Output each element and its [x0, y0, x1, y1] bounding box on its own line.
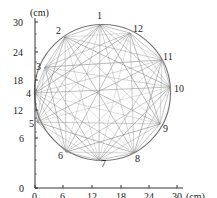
x-tick-label: 30	[172, 191, 182, 198]
node-label-7: 7	[101, 158, 106, 169]
node-label-9: 9	[163, 123, 168, 134]
node-label-2: 2	[56, 25, 61, 36]
node-label-4: 4	[26, 88, 31, 99]
node-label-5: 5	[29, 118, 34, 129]
y-tick-label: 18	[13, 75, 23, 86]
graph-edge	[45, 67, 134, 153]
graph-edge	[130, 33, 134, 153]
graph-edge	[66, 152, 99, 160]
circle-graph-figure: 06121824300612182430 123456789101112 (cm…	[0, 0, 217, 198]
y-tick-label: 30	[13, 17, 23, 28]
node-label-3: 3	[36, 61, 41, 72]
x-axis-unit: (cm)	[186, 191, 205, 198]
y-axis-unit: (cm)	[30, 7, 49, 19]
y-tick-label: 12	[13, 105, 23, 116]
graph-edge	[45, 60, 162, 67]
axis-ticks: 06121824300612182430	[13, 17, 182, 198]
graph-edge	[37, 122, 160, 124]
node-label-8: 8	[135, 153, 140, 164]
x-tick-label: 24	[144, 191, 154, 198]
node-label-12: 12	[133, 23, 143, 34]
y-tick-label: 6	[19, 133, 24, 144]
node-label-6: 6	[58, 150, 63, 161]
x-tick-label: 0	[32, 191, 37, 198]
graph-edges	[35, 25, 171, 161]
graph-edge	[66, 152, 134, 153]
node-label-11: 11	[163, 51, 173, 62]
y-tick-label: 0	[19, 183, 24, 194]
graph-edge	[35, 93, 160, 124]
figure-canvas: 06121824300612182430 123456789101112 (cm…	[0, 0, 217, 198]
x-tick-label: 6	[60, 191, 65, 198]
x-tick-label: 12	[87, 191, 97, 198]
node-label-1: 1	[97, 10, 102, 21]
node-label-10: 10	[174, 83, 184, 94]
y-tick-label: 24	[13, 47, 23, 58]
x-tick-label: 18	[116, 191, 126, 198]
